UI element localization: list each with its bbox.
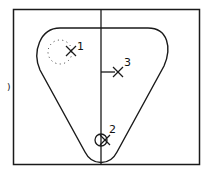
edge-glyph: ) (7, 82, 11, 92)
point-label-2: 2 (109, 123, 116, 136)
x-marker-icon (66, 46, 76, 56)
point-label-3: 3 (124, 56, 131, 69)
diagram-canvas: 1 3 2 ) (0, 0, 208, 172)
point-label-1: 1 (77, 40, 84, 53)
dotted-circle-icon (48, 40, 72, 64)
